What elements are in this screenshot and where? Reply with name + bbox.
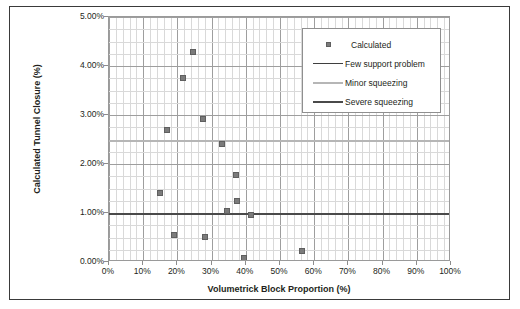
y-axis-tick-labels: 0.00%1.00%2.00%3.00%4.00%5.00% — [60, 16, 104, 261]
gridline-x-minor — [205, 17, 206, 260]
gridline-y-major — [109, 164, 449, 165]
y-tick-label: 1.00% — [64, 207, 104, 217]
x-tick-mark — [450, 261, 451, 265]
gridline-x-minor — [171, 17, 172, 260]
gridline-y-minor — [109, 140, 449, 141]
gridline-x-minor — [225, 17, 226, 260]
gridline-x-major — [246, 17, 247, 260]
gridline-x-minor — [164, 17, 165, 260]
legend-line-icon — [311, 82, 345, 84]
y-tick-label: 4.00% — [64, 60, 104, 70]
line-icon — [313, 101, 343, 103]
gridline-x-minor — [273, 17, 274, 260]
legend-label: Few support problem — [345, 59, 425, 69]
square-marker-icon — [326, 42, 331, 47]
x-axis-tick-labels: 0%10%20%30%40%50%60%70%80%90%100% — [108, 266, 450, 280]
legend-item-few-support-problem[interactable]: Few support problem — [303, 54, 440, 73]
legend-label: Calculated — [351, 40, 391, 50]
data-point — [190, 49, 196, 55]
y-tick-label: 0.00% — [64, 256, 104, 266]
gridline-x-minor — [130, 17, 131, 260]
y-tick-label: 5.00% — [64, 11, 104, 21]
data-point — [202, 234, 208, 240]
x-tick-mark — [245, 261, 246, 265]
gridline-x-minor — [184, 17, 185, 260]
y-tick-label: 3.00% — [64, 109, 104, 119]
legend-line-icon — [311, 101, 345, 103]
x-tick-mark — [416, 261, 417, 265]
chart-figure: Calculated Tunnel Closure (%) 0.00%1.00%… — [0, 0, 520, 309]
gridline-y-minor — [109, 238, 449, 239]
data-point — [171, 232, 177, 238]
gridline-x-minor — [123, 17, 124, 260]
x-tick-mark — [279, 261, 280, 265]
data-point — [248, 212, 254, 218]
data-point — [219, 141, 225, 147]
gridline-x-major — [143, 17, 144, 260]
x-tick-mark — [382, 261, 383, 265]
gridline-y-minor — [109, 127, 449, 128]
gridline-x-minor — [253, 17, 254, 260]
data-point — [299, 248, 305, 254]
x-tick-mark — [108, 261, 109, 265]
gridline-x-major — [280, 17, 281, 260]
legend-label: Severe squeezing — [345, 97, 413, 107]
data-point — [180, 75, 186, 81]
x-tick-mark — [347, 261, 348, 265]
gridline-y-minor — [109, 189, 449, 190]
reference-line-few-support-problem — [109, 213, 449, 214]
legend-item-severe-squeezing[interactable]: Severe squeezing — [303, 92, 440, 111]
y-tick-label: 2.00% — [64, 158, 104, 168]
gridline-y-minor — [109, 250, 449, 251]
gridline-x-major — [212, 17, 213, 260]
gridline-x-minor — [287, 17, 288, 260]
gridline-x-minor — [444, 17, 445, 260]
gridline-x-minor — [232, 17, 233, 260]
gridline-x-major — [177, 17, 178, 260]
legend-square-marker-icon — [311, 42, 345, 47]
gridline-x-major — [109, 17, 110, 260]
gridline-x-minor — [157, 17, 158, 260]
x-tick-mark — [211, 261, 212, 265]
gridline-x-minor — [136, 17, 137, 260]
legend-label: Minor squeezing — [345, 78, 407, 88]
x-tick-label: 100% — [430, 266, 470, 276]
gridline-x-minor — [150, 17, 151, 260]
legend-item-minor-squeezing[interactable]: Minor squeezing — [303, 73, 440, 92]
y-axis-title: Calculated Tunnel Closure (%) — [32, 29, 42, 229]
legend-item-calculated[interactable]: Calculated — [303, 35, 440, 54]
gridline-y-minor — [109, 201, 449, 202]
line-icon — [313, 82, 343, 84]
reference-line-minor-squeezing — [109, 140, 449, 142]
data-point — [200, 116, 206, 122]
line-icon — [313, 63, 343, 64]
gridline-y-major — [109, 17, 449, 18]
gridline-x-minor — [218, 17, 219, 260]
chart-legend: CalculatedFew support problemMinor squee… — [302, 28, 441, 113]
gridline-y-major — [109, 213, 449, 214]
x-axis-title: Volumetrick Block Proportion (%) — [108, 284, 450, 294]
gridline-y-minor — [109, 225, 449, 226]
data-point — [157, 190, 163, 196]
legend-line-icon — [311, 63, 345, 64]
data-point — [233, 172, 239, 178]
gridline-y-major — [109, 115, 449, 116]
gridline-y-minor — [109, 176, 449, 177]
x-tick-mark — [142, 261, 143, 265]
gridline-x-minor — [259, 17, 260, 260]
data-point — [224, 208, 230, 214]
x-tick-mark — [176, 261, 177, 265]
reference-line-severe-squeezing — [109, 213, 449, 215]
data-point — [164, 127, 170, 133]
x-tick-mark — [313, 261, 314, 265]
data-point — [234, 198, 240, 204]
gridline-x-minor — [198, 17, 199, 260]
gridline-x-minor — [116, 17, 117, 260]
gridline-x-minor — [266, 17, 267, 260]
gridline-y-minor — [109, 152, 449, 153]
gridline-x-minor — [239, 17, 240, 260]
gridline-x-minor — [294, 17, 295, 260]
gridline-x-minor — [191, 17, 192, 260]
